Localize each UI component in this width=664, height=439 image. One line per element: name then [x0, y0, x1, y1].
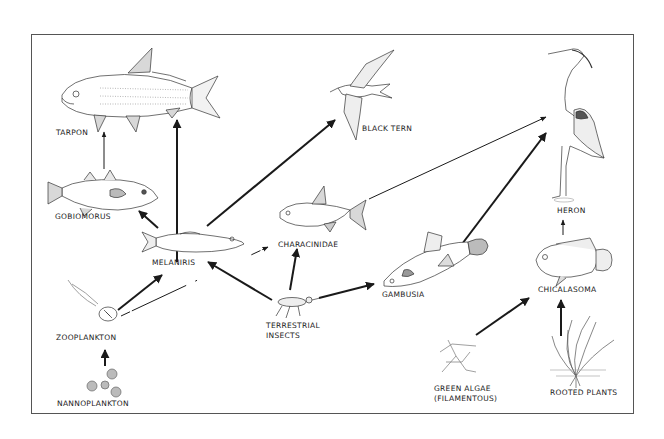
organism-illustrations [48, 48, 614, 397]
gambusia-illustration [384, 232, 488, 287]
label-gambusia: GAMBUSIA [382, 290, 425, 299]
gobiomorus-illustration [48, 170, 158, 216]
nannoplankton-illustration [87, 369, 121, 397]
terrestrial-insects-illustration [276, 297, 320, 318]
arrow-insects-to-characinidae [290, 249, 297, 290]
label-melaniris: MELANIRIS [152, 258, 195, 267]
label-tarpon: TARPON [56, 128, 88, 137]
chicalasoma-illustration [536, 238, 612, 286]
label-nannoplankton: NANNOPLANKTON [57, 399, 129, 408]
arrow-gambusia-to-heron [456, 133, 546, 252]
label-green-algae-line2: (FILAMENTOUS) [434, 394, 497, 403]
arrow-melaniris-to-gobiomorus [139, 211, 158, 228]
characinidae-illustration [280, 186, 366, 232]
melaniris-illustration [142, 232, 244, 252]
heron-illustration [548, 49, 604, 202]
label-green-algae-line1: GREEN ALGAE [434, 384, 491, 393]
zooplankton-illustration [68, 280, 117, 321]
label-chicalasoma: CHICALASOMA [538, 285, 597, 294]
arrow-zooplankton-to-melaniris [118, 275, 162, 310]
green-algae-illustration [440, 340, 476, 372]
label-terrestrial-insects-line1: TERRESTRIAL [266, 321, 320, 330]
arrow-insects-to-melaniris [208, 262, 272, 300]
label-heron: HERON [557, 206, 586, 215]
label-zooplankton: ZOOPLANKTON [56, 333, 116, 342]
label-terrestrial-insects-line2: INSECTS [266, 331, 300, 340]
arrow-algae-to-chicalasoma [476, 298, 529, 335]
rooted-plants-illustration [550, 316, 614, 388]
label-characinidae: CHARACINIDAE [278, 240, 338, 249]
arrow-insects-to-gambusia [319, 284, 374, 298]
tarpon-illustration [62, 48, 220, 132]
label-rooted-plants: ROOTED PLANTS [550, 388, 617, 397]
label-gobiomorus: GOBIOMORUS [55, 212, 111, 221]
label-black-tern: BLACK TERN [362, 124, 412, 133]
